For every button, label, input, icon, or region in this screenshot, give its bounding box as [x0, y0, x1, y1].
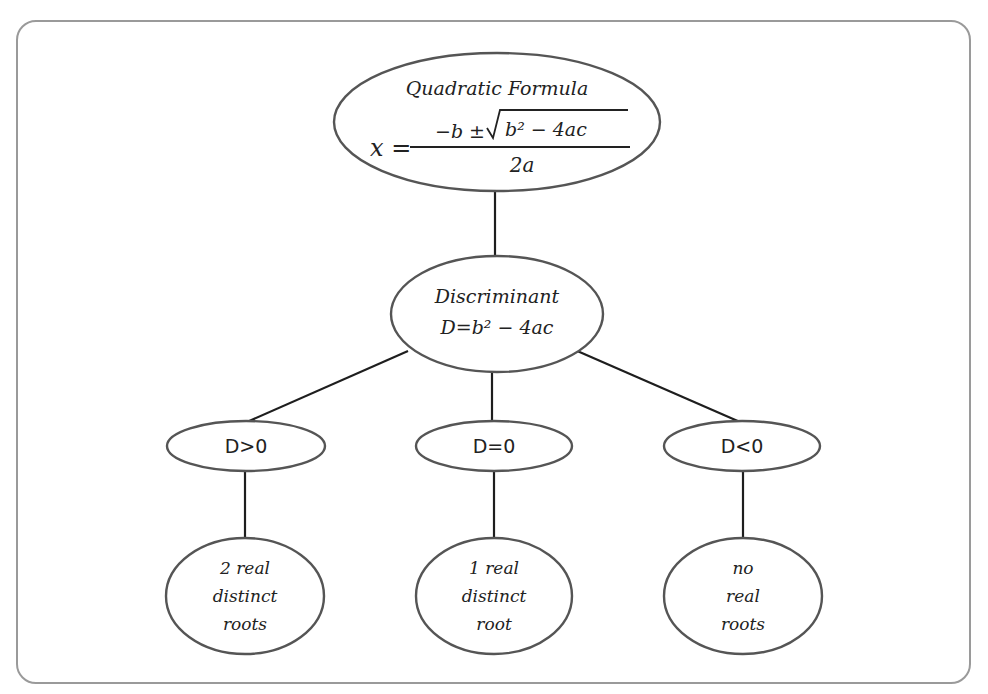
- condition-label: D=0: [473, 435, 516, 457]
- node-condition-positive: D>0: [167, 421, 325, 471]
- quadratic-formula-tree: Quadratic Formula x = −b ± b² − 4ac 2a D…: [0, 0, 988, 694]
- condition-label: D<0: [721, 435, 764, 457]
- formula-numerator-prefix: −b ±: [435, 120, 485, 142]
- condition-label: D>0: [225, 435, 268, 457]
- node-discriminant: Discriminant D=b² − 4ac: [391, 256, 603, 372]
- result-line: 1 real: [469, 558, 519, 578]
- node-quadratic-formula: Quadratic Formula x = −b ± b² − 4ac 2a: [334, 53, 660, 191]
- formula-radicand: b² − 4ac: [505, 118, 587, 140]
- result-line: distinct: [213, 586, 278, 606]
- result-line: root: [476, 614, 512, 634]
- discriminant-formula: D=b² − 4ac: [440, 316, 554, 338]
- result-line: roots: [223, 614, 267, 634]
- result-line: no: [732, 558, 753, 578]
- node-result-one-root: 1 real distinct root: [416, 538, 572, 654]
- node-condition-zero: D=0: [416, 421, 572, 471]
- edge-discriminant-negative: [575, 350, 740, 422]
- result-line: real: [726, 586, 760, 606]
- node-condition-negative: D<0: [664, 421, 820, 471]
- result-line: roots: [721, 614, 765, 634]
- result-line: distinct: [462, 586, 527, 606]
- discriminant-title: Discriminant: [434, 285, 560, 307]
- result-line: 2 real: [219, 558, 270, 578]
- edge-discriminant-positive: [247, 351, 408, 422]
- node-result-two-roots: 2 real distinct roots: [166, 538, 324, 654]
- formula-denominator: 2a: [509, 153, 535, 177]
- formula-lhs: x =: [370, 134, 411, 162]
- root-title: Quadratic Formula: [406, 77, 588, 99]
- node-result-no-roots: no real roots: [664, 538, 822, 654]
